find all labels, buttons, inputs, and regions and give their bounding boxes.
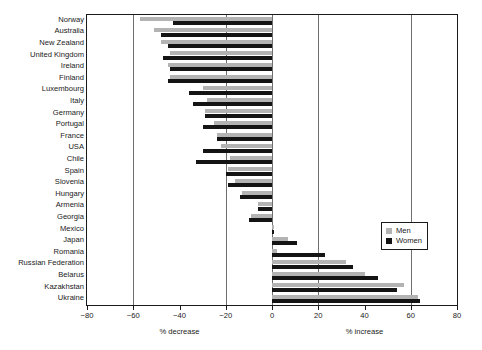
x-tick — [180, 306, 181, 310]
bar-women-finland — [168, 79, 272, 83]
x-tick — [272, 306, 273, 310]
y-label-finland: Finland — [0, 73, 84, 82]
bar-women-romania — [272, 253, 325, 257]
y-label-belarus: Belarus — [0, 270, 84, 279]
x-tick — [457, 306, 458, 310]
y-label-portugal: Portugal — [0, 119, 84, 128]
y-label-norway: Norway — [0, 15, 84, 24]
y-label-georgia: Georgia — [0, 212, 84, 221]
gridline — [133, 15, 134, 305]
axis-title-increase: % increase — [346, 327, 384, 336]
y-label-ireland: Ireland — [0, 61, 84, 70]
bar-women-armenia — [258, 207, 272, 211]
x-tick — [133, 306, 134, 310]
bar-women-new-zealand — [168, 44, 272, 48]
bar-women-italy — [193, 102, 272, 106]
bar-women-ireland — [170, 67, 272, 71]
legend-item-men: Men — [386, 226, 422, 236]
x-tick-label: −40 — [173, 311, 186, 320]
bar-women-germany — [205, 114, 272, 118]
axis-title-decrease: % decrease — [159, 327, 199, 336]
y-axis-category-labels: NorwayAustraliaNew ZealandUnited Kingdom… — [0, 14, 84, 306]
legend-item-women: Women — [386, 236, 422, 246]
bar-women-mexico — [272, 230, 274, 234]
y-label-chile: Chile — [0, 154, 84, 163]
y-label-armenia: Armenia — [0, 200, 84, 209]
y-label-new-zealand: New Zealand — [0, 38, 84, 47]
x-tick — [87, 306, 88, 310]
bar-women-hungary — [240, 195, 272, 199]
bar-women-portugal — [203, 125, 272, 129]
bar-women-luxembourg — [189, 91, 272, 95]
bar-women-spain — [226, 172, 272, 176]
gridline — [411, 15, 412, 305]
bar-women-chile — [196, 160, 272, 164]
x-tick — [226, 306, 227, 310]
y-label-mexico: Mexico — [0, 224, 84, 233]
x-tick-label: −20 — [219, 311, 232, 320]
plot-area — [86, 14, 458, 306]
bar-women-ukraine — [272, 299, 420, 303]
x-tick-label: −80 — [81, 311, 94, 320]
bar-women-australia — [161, 33, 272, 37]
y-label-kazakhstan: Kazakhstan — [0, 282, 84, 291]
legend-label-men: Men — [396, 226, 411, 236]
y-label-hungary: Hungary — [0, 189, 84, 198]
y-label-france: France — [0, 131, 84, 140]
bar-women-russian-federation — [272, 265, 353, 269]
x-axis: −80−60−40−20020406080% decrease% increas… — [86, 306, 458, 346]
x-tick-label: 60 — [407, 311, 415, 320]
bar-women-slovenia — [228, 183, 272, 187]
x-tick-label: 80 — [453, 311, 461, 320]
y-label-germany: Germany — [0, 108, 84, 117]
chart-figure: NorwayAustraliaNew ZealandUnited Kingdom… — [0, 0, 482, 350]
legend-swatch-men — [386, 228, 392, 234]
y-label-ukraine: Ukraine — [0, 293, 84, 302]
x-tick — [411, 306, 412, 310]
x-tick-label: 20 — [314, 311, 322, 320]
y-label-romania: Romania — [0, 247, 84, 256]
bar-women-norway — [173, 21, 272, 25]
y-label-slovenia: Slovenia — [0, 177, 84, 186]
x-tick-label: 0 — [270, 311, 274, 320]
x-tick-label: 40 — [360, 311, 368, 320]
y-label-usa: USA — [0, 142, 84, 151]
y-label-russian-federation: Russian Federation — [0, 258, 84, 267]
y-label-italy: Italy — [0, 96, 84, 105]
y-label-spain: Spain — [0, 166, 84, 175]
bar-women-belarus — [272, 276, 378, 280]
y-label-japan: Japan — [0, 235, 84, 244]
bar-women-united-kingdom — [163, 56, 272, 60]
y-label-luxembourg: Luxembourg — [0, 84, 84, 93]
x-tick-label: −60 — [127, 311, 140, 320]
bar-women-france — [217, 137, 273, 141]
bar-women-japan — [272, 241, 297, 245]
legend: Men Women — [381, 222, 428, 250]
legend-swatch-women — [386, 238, 392, 244]
y-label-united-kingdom: United Kingdom — [0, 50, 84, 59]
legend-label-women: Women — [396, 236, 422, 246]
y-label-australia: Australia — [0, 26, 84, 35]
x-tick — [365, 306, 366, 310]
bar-women-georgia — [249, 218, 272, 222]
bar-women-kazakhstan — [272, 288, 397, 292]
x-tick — [318, 306, 319, 310]
bar-women-usa — [203, 149, 272, 153]
